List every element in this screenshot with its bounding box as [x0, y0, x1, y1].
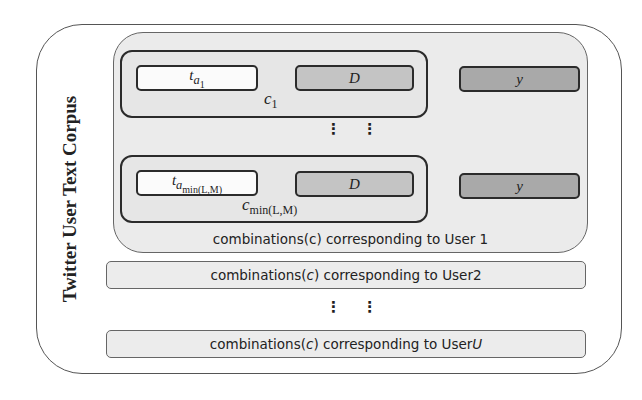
user2-bar: combinations(c) corresponding to User 2	[106, 261, 586, 289]
text-field-label: ta1	[189, 67, 204, 90]
y-label: y	[516, 71, 523, 88]
combinations-ellipsis: ⋮ ⋮	[326, 122, 385, 137]
userU-bar: combinations(c) corresponding to User U	[106, 330, 586, 358]
y-label: y	[516, 178, 523, 195]
corpus-title-text: Twitter User Text Corpus	[59, 96, 81, 302]
user1-caption: combinations(c) corresponding to User 1	[113, 231, 588, 247]
text-field-label: tamin(L,M)	[172, 172, 222, 195]
corpus-title: Twitter User Text Corpus	[10, 24, 130, 374]
text-field-tamin: tamin(L,M)	[136, 170, 258, 196]
domain-label: D	[349, 176, 360, 193]
label-field-y: y	[459, 173, 580, 199]
combo-label-c1: c1	[264, 89, 278, 112]
domain-field-D: D	[295, 65, 414, 91]
text-field-ta1: ta1	[136, 65, 258, 91]
users-ellipsis: ⋮ ⋮	[326, 300, 385, 315]
domain-label: D	[349, 70, 360, 87]
domain-field-D: D	[295, 171, 414, 197]
label-field-y: y	[459, 66, 580, 92]
combo-label-cmin: cmin(L,M)	[242, 195, 297, 218]
